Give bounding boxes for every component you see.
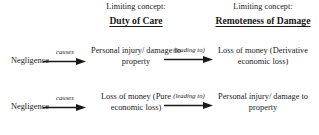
duty-of-care-heading-block: Limiting concept: Duty of Care — [88, 2, 184, 27]
flow-row: Negligence causes Loss of money (Pure ec… — [0, 92, 319, 135]
right-limiting-concept-label: Limiting concept: — [207, 2, 319, 12]
row-final-outcome: Loss of money (Derivative economic loss) — [207, 46, 319, 67]
duty-of-care-title: Duty of Care — [88, 15, 184, 27]
causes-arrow-group: causes — [41, 48, 89, 66]
left-limiting-concept-label: Limiting concept: — [88, 2, 184, 12]
arrow-right-icon — [43, 57, 87, 66]
remoteness-of-damage-heading-block: Limiting concept: Remoteness of Damage — [207, 2, 319, 27]
arrow-right-icon — [43, 103, 87, 112]
causes-arrow-group: causes — [41, 94, 89, 112]
causes-label: causes — [41, 48, 89, 56]
remoteness-of-damage-title: Remoteness of Damage — [207, 15, 319, 27]
causes-label: causes — [41, 94, 89, 102]
negligence-flow-diagram: Limiting concept: Duty of Care Limiting … — [0, 0, 319, 135]
row-final-outcome: Personal injury/ damage to property — [207, 92, 319, 113]
flow-row: Negligence causes Personal injury/ damag… — [0, 46, 319, 91]
